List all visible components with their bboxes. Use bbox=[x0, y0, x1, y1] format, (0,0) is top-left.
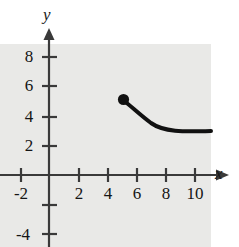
y-tick-label-8: 8 bbox=[20, 48, 38, 65]
x-axis-name-label: x bbox=[215, 165, 223, 182]
x-tick-label-8: 8 bbox=[157, 185, 175, 202]
x-tick-label-10: 10 bbox=[182, 185, 208, 202]
x-tick-label-2: 2 bbox=[70, 185, 88, 202]
y-axis-name-label: y bbox=[43, 6, 51, 23]
curve-endpoint-dot bbox=[118, 94, 129, 105]
y-axis-arrowhead bbox=[44, 28, 55, 40]
x-tick-label-4: 4 bbox=[99, 185, 117, 202]
y-tick-label-2: 2 bbox=[20, 137, 38, 154]
graph-figure: x y 8 6 4 2 -4 -2 2 4 6 8 10 bbox=[0, 0, 239, 247]
y-axis bbox=[44, 28, 55, 247]
x-tick-label--2: -2 bbox=[5, 185, 37, 202]
data-curve bbox=[118, 94, 211, 131]
curve-path bbox=[124, 101, 212, 132]
x-tick-label-6: 6 bbox=[128, 185, 146, 202]
y-tick-label-4: 4 bbox=[20, 108, 38, 125]
y-tick-label-6: 6 bbox=[20, 77, 38, 94]
y-tick-label--4: -4 bbox=[7, 226, 39, 243]
